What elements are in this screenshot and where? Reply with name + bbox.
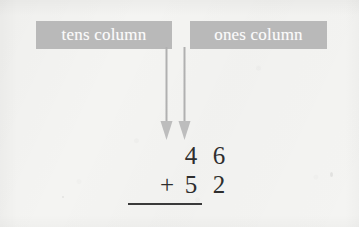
callout-tens-column: tens column: [36, 21, 172, 49]
addition-problem: 4 6 + 5 2: [120, 142, 230, 205]
scan-speck: [330, 172, 333, 177]
plus-operator: +: [154, 171, 180, 199]
sum-horizontal-rule: [128, 203, 202, 205]
addend-row-first: 4 6: [120, 142, 230, 171]
first-addend-ones-digit: 6: [208, 142, 230, 170]
ones-column-arrow-icon: [178, 47, 192, 142]
callout-ones-column: ones column: [190, 21, 327, 49]
second-addend-tens-digit: 5: [180, 171, 202, 199]
tens-column-arrow-icon: [160, 47, 174, 142]
scanned-figure: tens column ones column 4 6 + 5 2: [0, 0, 359, 227]
second-addend-ones-digit: 2: [208, 171, 230, 199]
scan-speck: [62, 196, 64, 198]
first-addend-tens-digit: 4: [180, 142, 202, 170]
addend-row-second: + 5 2: [120, 171, 230, 200]
